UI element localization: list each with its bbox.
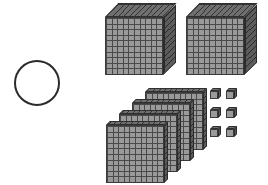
cube-side-face: [163, 4, 176, 75]
unit-side-face: [234, 107, 237, 118]
cube-front-face: [105, 17, 163, 75]
flat-side-edge: [164, 121, 168, 183]
unit-side-face: [218, 107, 221, 118]
unit-side-face: [234, 88, 237, 99]
unit-side-face: [234, 126, 237, 137]
unit-cube[interactable]: [210, 126, 221, 137]
unit-cube[interactable]: [226, 88, 237, 99]
cube-side-face: [244, 4, 257, 75]
unit-cube[interactable]: [210, 107, 221, 118]
unit-front-face: [210, 91, 218, 99]
unit-cube[interactable]: [226, 107, 237, 118]
flat-side-edge: [190, 99, 194, 161]
unit-cube[interactable]: [210, 88, 221, 99]
unit-front-face: [226, 91, 234, 99]
flat-side-edge: [177, 110, 181, 172]
unit-side-face: [218, 126, 221, 137]
answer-circle[interactable]: [14, 60, 60, 106]
unit-front-face: [210, 110, 218, 118]
cube-front-face: [186, 17, 244, 75]
flat-front-face: [106, 125, 164, 183]
unit-cube[interactable]: [226, 126, 237, 137]
unit-side-face: [218, 88, 221, 99]
flat-side-edge: [203, 88, 207, 150]
thousand-cube[interactable]: [186, 3, 258, 83]
thousand-cube[interactable]: [105, 3, 177, 83]
unit-front-face: [210, 129, 218, 137]
unit-front-face: [226, 110, 234, 118]
base-ten-blocks-scene: [0, 0, 268, 185]
unit-front-face: [226, 129, 234, 137]
hundred-flat[interactable]: [106, 121, 168, 183]
